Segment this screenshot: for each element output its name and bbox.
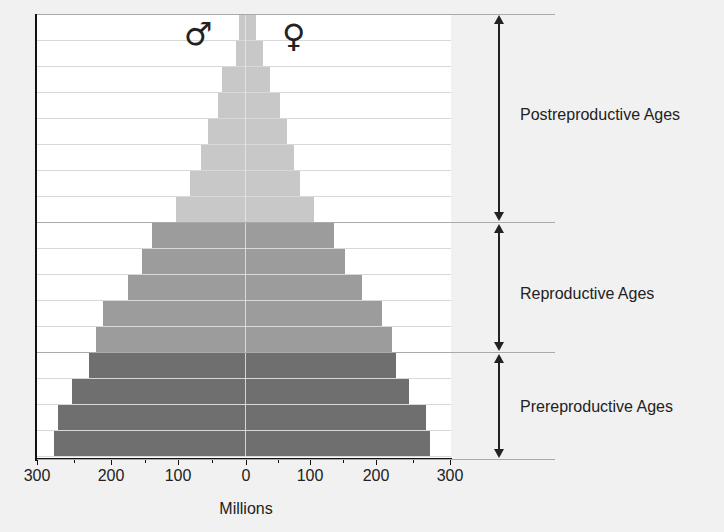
bar-male	[152, 223, 246, 248]
bar-female	[246, 15, 256, 40]
bar-male	[89, 353, 246, 378]
x-tick-label: 0	[221, 467, 271, 485]
bar-male	[208, 119, 246, 144]
group-label-postreproductive: Postreproductive Ages	[520, 106, 680, 124]
boundary-line-top	[37, 14, 555, 15]
bar-female	[246, 41, 263, 66]
arrowhead-down-icon	[494, 212, 504, 221]
bar-female	[246, 301, 382, 326]
arrow-line	[498, 229, 500, 347]
bar-female	[246, 327, 392, 352]
arrow-line	[498, 20, 500, 217]
arrowhead-down-icon	[494, 449, 504, 458]
bar-female	[246, 145, 294, 170]
x-axis-title: Millions	[196, 500, 296, 518]
bar-male	[54, 431, 246, 456]
bar-female	[246, 353, 396, 378]
x-tick-label: 200	[351, 467, 401, 485]
bar-male	[128, 275, 246, 300]
arrowhead-down-icon	[494, 342, 504, 351]
bar-male	[96, 327, 246, 352]
bar-female	[246, 379, 409, 404]
bar-male	[72, 379, 246, 404]
bar-female	[246, 249, 345, 274]
bar-male	[176, 197, 246, 222]
group-label-prereproductive: Prereproductive Ages	[520, 398, 673, 416]
x-tick-label: 300	[12, 467, 62, 485]
group-label-reproductive: Reproductive Ages	[520, 285, 654, 303]
bar-female	[246, 223, 334, 248]
boundary-line-bottom	[37, 459, 555, 460]
female-symbol-icon: ♀	[282, 20, 305, 52]
x-tick-label: 100	[285, 467, 335, 485]
arrow-line	[498, 359, 500, 453]
x-tick-label: 300	[425, 467, 475, 485]
bar-male	[222, 67, 246, 92]
bar-male	[58, 405, 246, 430]
bar-female	[246, 171, 300, 196]
bar-male	[103, 301, 246, 326]
bar-female	[246, 405, 426, 430]
bar-female	[246, 119, 287, 144]
gridline	[37, 456, 451, 457]
bar-female	[246, 197, 314, 222]
bar-female	[246, 67, 270, 92]
bar-male	[142, 249, 247, 274]
bar-female	[246, 431, 430, 456]
center-line	[245, 14, 246, 459]
boundary-line-post-repro	[37, 222, 555, 223]
bar-female	[246, 93, 280, 118]
bar-male	[190, 171, 246, 196]
y-axis	[35, 14, 37, 461]
bar-female	[246, 275, 362, 300]
bar-male	[201, 145, 246, 170]
male-symbol-icon: ♂	[184, 18, 213, 50]
bar-male	[218, 93, 246, 118]
boundary-line-repro-pre	[37, 352, 555, 353]
x-tick-label: 200	[86, 467, 136, 485]
x-tick-label: 100	[153, 467, 203, 485]
